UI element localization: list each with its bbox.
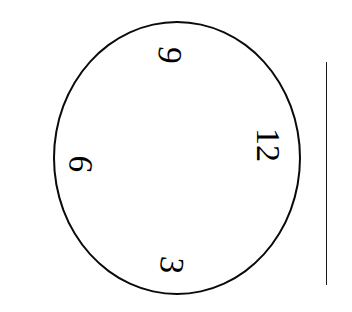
figure-canvas: 12 3 6 9: [0, 0, 352, 312]
clock-numeral-12-label: 12: [251, 128, 285, 162]
clock-numeral-9-label: 9: [152, 45, 188, 65]
clock-numeral-9: 9: [152, 45, 188, 65]
clock-numeral-3-label: 3: [154, 255, 190, 275]
clock-numeral-12: 12: [251, 128, 285, 162]
clock-numeral-6-label: 6: [63, 154, 99, 174]
clock-numeral-3: 3: [154, 255, 190, 275]
clock-numeral-6: 6: [63, 154, 99, 174]
vertical-rule-line: [326, 62, 327, 285]
